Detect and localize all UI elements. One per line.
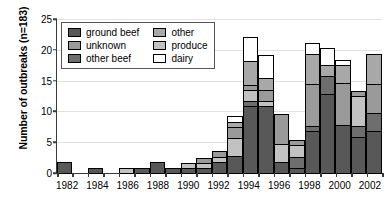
x-tick-mark (72, 173, 74, 177)
bar-segment[interactable] (150, 162, 165, 174)
bar-segment[interactable] (320, 48, 335, 66)
bar-segment[interactable] (305, 131, 320, 174)
stacked-bar[interactable] (227, 116, 242, 173)
bar-segment[interactable] (335, 83, 350, 126)
y-tick-label: 5 (46, 137, 57, 148)
stacked-bar[interactable] (274, 114, 289, 173)
bar-segment[interactable] (320, 94, 335, 174)
bar-segment[interactable] (335, 125, 350, 174)
x-tick-mark (181, 173, 183, 177)
bar-slot (274, 19, 289, 173)
bar-slot (289, 19, 304, 173)
x-tick-label: 1994 (238, 180, 260, 200)
bar-segment[interactable] (274, 144, 289, 162)
bar-segment[interactable] (119, 168, 134, 174)
stacked-bar[interactable] (150, 162, 165, 173)
legend-item[interactable]: other beef (68, 53, 139, 64)
x-tick-label-empty (139, 180, 147, 200)
bar-segment[interactable] (243, 61, 258, 86)
bar-segment[interactable] (227, 156, 242, 174)
bar-segment[interactable] (88, 168, 103, 174)
legend-item-label: unknown (86, 40, 126, 51)
x-tick-mark (103, 173, 105, 177)
bar-segment[interactable] (243, 106, 258, 174)
bar-segment[interactable] (274, 114, 289, 145)
bar-slot (243, 19, 258, 173)
bar-segment[interactable] (320, 76, 335, 94)
bar-segment[interactable] (335, 65, 350, 83)
x-tick-label: 1998 (298, 180, 320, 200)
bar-segment[interactable] (305, 84, 320, 127)
bar-segment[interactable] (243, 37, 258, 62)
bar-segment[interactable] (366, 113, 381, 131)
legend-swatch-icon (68, 41, 81, 50)
bar-segment[interactable] (196, 168, 211, 174)
legend-item-label: dairy (171, 53, 193, 64)
y-tick-label: 25 (41, 14, 57, 25)
stacked-bar[interactable] (258, 55, 273, 173)
x-tick-mark (150, 173, 152, 177)
y-tick-label: 0 (46, 168, 57, 179)
legend-item[interactable]: dairy (153, 53, 207, 64)
stacked-bar[interactable] (212, 151, 227, 173)
x-tick-label: 2002 (359, 180, 381, 200)
bar-segment[interactable] (305, 54, 320, 85)
bar-segment[interactable] (165, 168, 180, 174)
bar-segment[interactable] (351, 137, 366, 174)
x-axis-labels: 1982198419861988199019921994199619982000… (56, 180, 381, 200)
bar-segment[interactable] (57, 162, 72, 174)
bar-slot (335, 19, 350, 173)
x-tick-label: 1982 (56, 180, 78, 200)
bar-segment[interactable] (134, 168, 149, 174)
bar-slot (258, 19, 273, 173)
bar-segment[interactable] (274, 162, 289, 174)
legend-item[interactable]: ground beef (68, 27, 139, 38)
bar-segment[interactable] (227, 138, 242, 156)
stacked-bar[interactable] (134, 168, 149, 173)
stacked-bar[interactable] (181, 163, 196, 173)
bar-segment[interactable] (212, 162, 227, 174)
x-tick-mark (165, 173, 167, 177)
x-tick-label: 1990 (177, 180, 199, 200)
stacked-bar[interactable] (366, 54, 381, 173)
bar-segment[interactable] (258, 55, 273, 80)
x-tick-label: 1986 (117, 180, 139, 200)
bar-slot (351, 19, 366, 173)
x-tick-label: 1996 (268, 180, 290, 200)
stacked-bar[interactable] (196, 158, 211, 173)
bar-segment[interactable] (366, 84, 381, 115)
stacked-bar[interactable] (57, 162, 72, 173)
x-tick-mark (134, 173, 136, 177)
x-tick-mark (382, 173, 384, 177)
legend-item[interactable]: produce (153, 40, 207, 51)
bar-segment[interactable] (289, 168, 304, 174)
legend-item-label: other beef (86, 53, 131, 64)
x-tick-label: 2000 (329, 180, 351, 200)
bar-segment[interactable] (258, 106, 273, 174)
legend-swatch-icon (153, 41, 166, 50)
x-tick-label-empty (169, 180, 177, 200)
x-tick-mark (336, 173, 338, 177)
stacked-bar[interactable] (305, 43, 320, 173)
stacked-bar[interactable] (320, 48, 335, 173)
stacked-bar[interactable] (88, 168, 103, 173)
bar-segment[interactable] (181, 168, 196, 174)
stacked-bar[interactable] (119, 168, 134, 173)
x-tick-label: 1984 (86, 180, 108, 200)
legend-item[interactable]: other (153, 27, 207, 38)
bar-slot (305, 19, 320, 173)
bar-segment[interactable] (351, 96, 366, 127)
x-tick-mark (351, 173, 353, 177)
bar-segment[interactable] (366, 54, 381, 85)
stacked-bar[interactable] (289, 140, 304, 173)
legend-item[interactable]: unknown (68, 40, 139, 51)
x-tick-mark (227, 173, 229, 177)
stacked-bar[interactable] (165, 168, 180, 173)
stacked-bar[interactable] (351, 91, 366, 173)
stacked-bar[interactable] (335, 60, 350, 173)
chart-legend: ground beefotherunknownproduceother beef… (61, 22, 215, 69)
x-tick-mark (367, 173, 369, 177)
chart-figure: Number of outbreaks (n=183) 0510152025 1… (0, 0, 387, 205)
bar-segment[interactable] (366, 131, 381, 174)
stacked-bar[interactable] (243, 37, 258, 173)
